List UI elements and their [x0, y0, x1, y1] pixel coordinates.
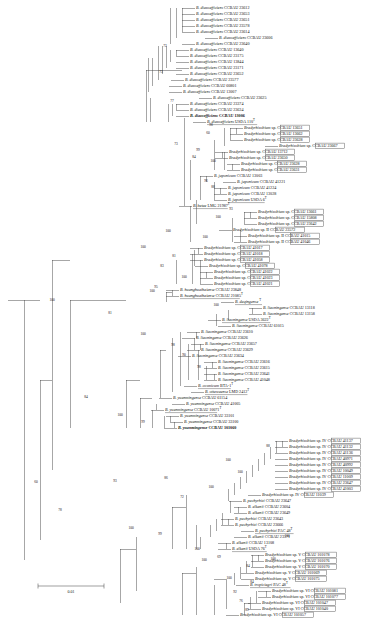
- tip-label: Bradyrhizobium sp. IV CCBAU 11009: [289, 474, 353, 479]
- bootstrap-value: 100: [237, 470, 243, 474]
- tip-label: B. liaoningense CCBAU 23634: [192, 353, 244, 358]
- tip-label: Bradyrhizobium sp. CCBAU 41018: [204, 251, 263, 256]
- tip-label: B. japonicum USDA 6T: [228, 196, 267, 202]
- tip-label: Bradyrhizobium sp. CCBAU 13712: [229, 149, 288, 154]
- tip-label: B. diazoefficiens CCBAU 23640: [196, 41, 249, 46]
- scale-bar: 0.01: [38, 584, 104, 595]
- tip-label: B. yuanmingense CCBAU 101060: [177, 425, 236, 430]
- tip-label: B. liaoningense CCBAU 13158: [263, 311, 315, 316]
- tip-label: Bradyrhizobium sp. CCBAU 13662: [244, 131, 303, 136]
- tip-label: Bradyrhizobium sp. CCBAU 13661: [258, 209, 317, 214]
- tip-label: Bradyrhizobium sp. IV CCBAU 41003: [289, 486, 353, 491]
- tip-label: Bradyrhizobium sp. CCBAU 13651: [244, 125, 303, 130]
- bootstrap-value: 100: [49, 298, 55, 302]
- tip-label: B. huanghuaihaiense CCBAU 21085T: [180, 292, 243, 298]
- bootstrap-value: 78: [58, 508, 62, 512]
- tip-label: Bradyrhizobium sp. V CCBAU 101070: [265, 564, 330, 569]
- bootstrap-value: 99: [141, 420, 145, 424]
- tip-label: B. elkanii USDA 76T: [232, 545, 267, 551]
- bootstrap-value: 100: [181, 275, 187, 279]
- bootstrap-value: 73: [174, 142, 178, 146]
- tip-label: B. liaoningense CCBAU 23629: [201, 347, 253, 352]
- tip-label: B. liaoningense CCBAU 13118: [263, 305, 315, 310]
- tip-label: Bradyrhizobium sp. CCBAU 41058: [204, 257, 263, 262]
- tip-label: B. japonicum CCBAU 41221: [237, 179, 285, 184]
- bootstrap-value: 72: [163, 44, 167, 48]
- tip-label: Bradyrhizobium sp. IV CCBAU 41137: [289, 438, 353, 443]
- bootstrap-value: 100: [117, 413, 123, 417]
- bootstrap-value: 95: [154, 285, 158, 289]
- bootstrap-value: 100: [140, 245, 146, 249]
- tip-label: Bradyrhizobium sp. CCBAU 23628: [241, 161, 300, 166]
- tip-label: B. yuanmingense CCBAU 33101: [180, 413, 234, 418]
- bootstrap-value: 84: [250, 580, 254, 584]
- tip-label: Bradyrhizobium sp. VI CCBAU 101047: [262, 600, 328, 605]
- tip-label: B. elkanii CCBAU 23649: [248, 510, 290, 515]
- tip-label: B. diazoefficiens CCBAU 13006: [189, 113, 245, 118]
- tip-label: Bradyrhizobium sp. IV CCBAU 41132: [289, 444, 353, 449]
- tip-label: B. liaoningense CCBAU 23616: [218, 359, 270, 364]
- bootstrap-value: 93: [229, 207, 233, 211]
- tip-label: B. diazoefficiens CCBAU 23625: [213, 95, 266, 100]
- tip-label: B. diazoefficiens CCBAU 23651: [196, 17, 249, 22]
- bootstrap-value: 69: [217, 555, 221, 559]
- tip-label: Bradyrhizobium sp. VI CCBAU 101081: [272, 588, 338, 593]
- bootstrap-value: 83: [160, 264, 164, 268]
- tip-label: Bradyrhizobium sp. CCBAU 23642: [258, 221, 317, 226]
- bootstrap-value: 81: [172, 254, 176, 258]
- bootstrap-value: 98: [171, 343, 175, 347]
- tip-label: Bradyrhizobium sp. IV CCBAU 40971: [289, 456, 353, 461]
- scale-bar-label: 0.01: [68, 589, 75, 594]
- bootstrap-value: 92: [233, 590, 237, 594]
- bootstrap-value: 100: [284, 534, 290, 538]
- phylogenetic-tree-figure: B. diazoefficiens CCBAU 23612B. diazoeff…: [0, 0, 371, 618]
- tip-label: B. liaoningense USDA 3622T: [222, 316, 271, 322]
- tip-label: B. diazoefficiens CCBAU 13640: [190, 47, 243, 52]
- tip-label: B. yuanmingense CCBAU 61154: [173, 395, 227, 400]
- tip-label: Bradyrhizobium sp. IV CCBAU 23647: [289, 480, 353, 485]
- tip-label: B. japonicum CCBAU 13028: [228, 191, 276, 196]
- tip-label: B. liaoningense CCBAU 23657: [205, 341, 257, 346]
- bootstrap-value: 72: [180, 495, 184, 499]
- tip-label: Bradyrhizobium sp. CCBAU 41078: [209, 263, 268, 268]
- bootstrap-value: 84: [246, 564, 250, 568]
- tip-label: Bradyrhizobium sp. VI CCBAU 101040: [262, 606, 328, 611]
- tip-label: Bradyrhizobium sp. VI CCBAU 101057: [240, 612, 306, 617]
- bootstrap-value: 100: [128, 526, 134, 530]
- tip-label: B. daqingense T: [235, 298, 261, 304]
- tip-label: B. diazoefficiens CCBAU 13844: [190, 59, 243, 64]
- tip-label: B. huanghuaihaiense CCBAU 23848: [180, 287, 241, 292]
- tip-label: B. liaoningense CCBAU 61015: [232, 323, 284, 328]
- tip-label: Bradyrhizobium sp. CCBAU 41023: [214, 275, 273, 280]
- tip-label: B. pachyrhizi CCBAU 23666: [235, 522, 283, 527]
- tip-label: B. diazoefficiens CCBAU 13007: [183, 89, 236, 94]
- tip-label: B. japonicum CCBAU 41224: [228, 185, 276, 190]
- tip-label: B. betae LMG 21987T: [193, 202, 230, 208]
- tip-label: B. liaoningense CCBAU 41048: [218, 377, 270, 382]
- tip-label: B. liaoningense CCBAU 23626: [196, 335, 248, 340]
- tip-label: B. pachyrhizi PAC 48T: [255, 527, 293, 533]
- tip-label: B. cosmicum BTA-1T: [198, 382, 233, 388]
- tip-label: Bradyrhizobium sp. CCBAU 15808: [258, 215, 317, 220]
- bootstrap-value: 99: [158, 532, 162, 536]
- bootstrap-value: 60: [206, 131, 210, 135]
- tip-label: Bradyrhizobium sp. CCBAU 23667: [279, 143, 338, 148]
- tip-label: Bradyrhizobium sp. CCBAU 41022: [214, 269, 273, 274]
- tip-label: B. yuanmingense CCBAU 41005: [186, 401, 240, 406]
- tip-label: Bradyrhizobium sp. II CCBAU 41046: [248, 239, 310, 244]
- tip-label: B. diazoefficiens CCBAU 23374: [190, 101, 243, 106]
- bootstrap-value: 73: [159, 70, 163, 74]
- bootstrap-value: 86: [164, 476, 168, 480]
- bootstrap-value: 100: [210, 159, 216, 163]
- bootstrap-value: 81: [108, 311, 112, 315]
- tip-label: Bradyrhizobium sp. V CCBAU 101069: [255, 570, 320, 575]
- tip-label: Bradyrhizobium sp. CCBAU 23650: [229, 155, 288, 160]
- bootstrap-value: 100: [194, 547, 200, 551]
- bootstrap-value: 100: [202, 235, 208, 239]
- tip-label: Bradyrhizobium sp. CCBAU 41017: [204, 245, 263, 250]
- tip-label: B. diazoefficiens CCBAU 23577: [185, 77, 238, 82]
- tip-label: B. pachyrhizi CCBAU 23647: [243, 498, 291, 503]
- tip-label: B. diazoefficiens CCBAU 23606: [219, 35, 272, 40]
- tip-label: B. diazoefficiens CCBAU 23614: [196, 29, 249, 34]
- tip-label: Bradyrhizobium sp. II CCBAU 23572: [233, 227, 295, 232]
